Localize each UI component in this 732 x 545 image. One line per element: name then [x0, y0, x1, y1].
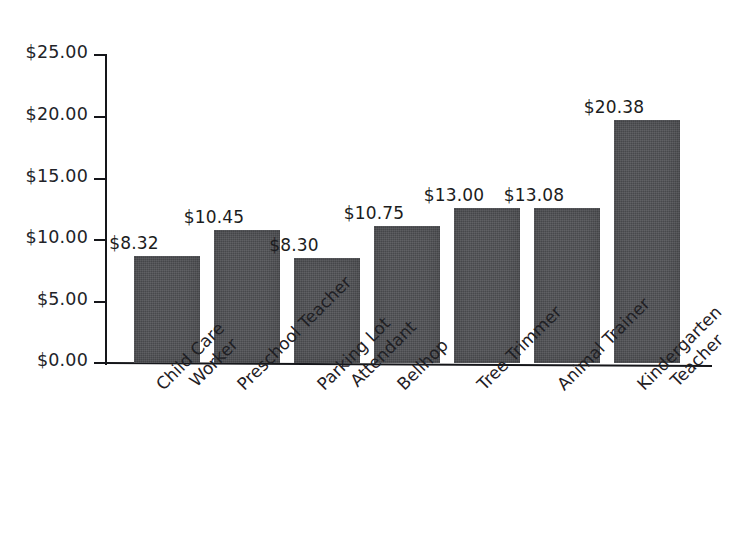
bar-value-label: $8.30 [239, 235, 349, 255]
y-axis-tick [94, 54, 106, 56]
y-axis-label: $15.00 [2, 166, 88, 186]
bar[interactable] [454, 208, 520, 363]
y-axis-label: $25.00 [2, 42, 88, 62]
bar-value-label: $10.75 [319, 203, 429, 223]
bar[interactable] [534, 208, 600, 363]
bar-value-label: $10.45 [159, 207, 269, 227]
x-axis-category-labels: Child Care Worker Preschool Teacher Park… [0, 366, 732, 541]
bar-value-label: $20.38 [559, 97, 669, 117]
y-axis-label: $5.00 [2, 289, 88, 309]
bar-value-label: $13.08 [479, 185, 589, 205]
y-axis-label: $10.00 [2, 227, 88, 247]
y-axis-tick [94, 301, 106, 303]
bar-value-label: $8.32 [79, 233, 189, 253]
y-axis-tick [94, 116, 106, 118]
y-axis-label: $20.00 [2, 104, 88, 124]
y-axis-tick [94, 178, 106, 180]
bar-chart: $25.00 $20.00 $15.00 $10.00 $5.00 $0.00 … [0, 0, 732, 545]
